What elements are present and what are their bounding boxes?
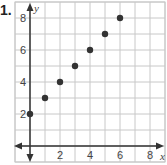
data-point (27, 111, 33, 117)
y-axis-down-arrow-icon (27, 154, 34, 162)
y-tick-label: 8 (20, 12, 26, 24)
y-axis-label: y (33, 2, 39, 14)
data-point (57, 79, 63, 85)
y-tick-label: 6 (20, 44, 26, 56)
x-tick-label: 8 (147, 149, 153, 161)
y-tick-label: 4 (20, 76, 26, 88)
y-axis-up-arrow-icon (27, 3, 34, 11)
x-axis-right-arrow-icon (156, 143, 164, 150)
data-point (102, 31, 108, 37)
scatter-plot: xy24682468 (0, 0, 167, 165)
x-tick-label: 2 (57, 149, 63, 161)
x-tick-label: 6 (117, 149, 123, 161)
y-tick-label: 2 (20, 108, 26, 120)
data-point (42, 95, 48, 101)
grid-lines (15, 2, 165, 162)
x-axis-label: x (159, 150, 165, 162)
data-point (87, 47, 93, 53)
data-point (117, 15, 123, 21)
data-point (72, 63, 78, 69)
x-tick-label: 4 (87, 149, 93, 161)
